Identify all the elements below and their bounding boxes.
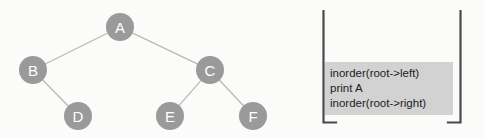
tree-edge-c-e [179, 80, 202, 106]
tree-edge-a-b [45, 33, 109, 64]
tree-node-circle [239, 102, 267, 130]
tree-node-e[interactable]: E [156, 102, 184, 130]
tree-node-a[interactable]: A [106, 13, 134, 41]
tree-svg: ABCDEF [0, 0, 300, 138]
tree-node-circle [106, 13, 134, 41]
tree-edge-b-d [42, 79, 69, 106]
tree-node-circle [156, 102, 184, 130]
pseudocode-panel: inorder(root->left) print A inorder(root… [312, 0, 484, 138]
tree-node-circle [19, 56, 47, 84]
tree-edge-a-c [132, 33, 199, 65]
code-line: print A [330, 81, 449, 96]
tree-node-circle [196, 56, 224, 84]
figure-canvas: ABCDEF inorder(root->left) print A inord… [0, 0, 484, 138]
tree-node-b[interactable]: B [19, 56, 47, 84]
tree-node-c[interactable]: C [196, 56, 224, 84]
tree-edge-c-f [219, 79, 244, 106]
code-line: inorder(root->right) [330, 96, 449, 111]
pseudocode-block: inorder(root->left) print A inorder(root… [325, 62, 453, 115]
tree-node-circle [64, 102, 92, 130]
tree-node-d[interactable]: D [64, 102, 92, 130]
binary-tree-diagram: ABCDEF [0, 0, 300, 138]
tree-node-group: ABCDEF [19, 13, 267, 130]
code-line: inorder(root->left) [330, 66, 449, 81]
tree-node-f[interactable]: F [239, 102, 267, 130]
